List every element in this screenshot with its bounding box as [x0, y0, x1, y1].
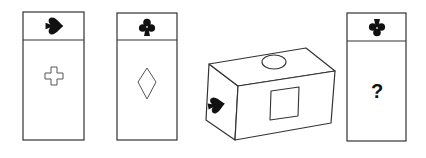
panel-2 — [117, 13, 177, 140]
cube-3d — [206, 48, 335, 140]
question-mark: ? — [371, 80, 383, 102]
panel-4: ? — [347, 13, 406, 141]
panel-1 — [23, 12, 84, 140]
puzzle-figure: ? — [0, 0, 426, 158]
